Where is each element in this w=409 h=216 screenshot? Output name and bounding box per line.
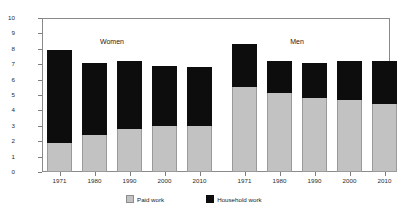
bar-segment-household-work xyxy=(302,63,327,98)
x-axis-tick-mark xyxy=(95,172,96,176)
x-axis-tick-label: 2000 xyxy=(148,177,182,184)
bar-segment-household-work xyxy=(232,44,257,87)
bar-column xyxy=(187,67,212,172)
bar-segment-household-work xyxy=(152,66,177,126)
bar-segment-paid-work xyxy=(117,129,142,172)
y-axis-tick-label: 8 xyxy=(0,46,15,52)
group-heading-men: Men xyxy=(252,38,342,45)
bar-segment-household-work xyxy=(267,61,292,93)
bar-segment-household-work xyxy=(82,63,107,135)
x-axis-tick-label: 1990 xyxy=(298,177,332,184)
legend-label-household-work: Household work xyxy=(217,196,261,203)
bar-segment-household-work xyxy=(47,50,72,142)
legend-label-paid-work: Paid work xyxy=(137,196,164,203)
bar-segment-paid-work xyxy=(267,93,292,172)
x-axis-tick-mark xyxy=(200,172,201,176)
y-axis-tick-label: 6 xyxy=(0,77,15,83)
y-axis-tick-label: 7 xyxy=(0,61,15,67)
bar-segment-paid-work xyxy=(152,126,177,172)
y-axis-tick-label: 5 xyxy=(0,92,15,98)
x-axis-tick-mark xyxy=(350,172,351,176)
y-axis-tick-label: 0 xyxy=(0,169,15,175)
bar-column xyxy=(302,63,327,172)
bar-column xyxy=(152,66,177,172)
legend-item-paid-work: Paid work xyxy=(126,195,164,203)
bar-segment-paid-work xyxy=(337,100,362,172)
bar-segment-household-work xyxy=(337,61,362,100)
y-axis-tick-label: 2 xyxy=(0,138,15,144)
y-axis-tick-label: 9 xyxy=(0,30,15,36)
x-axis-tick-label: 1971 xyxy=(43,177,77,184)
x-axis-tick-mark xyxy=(130,172,131,176)
x-axis-tick-label: 2000 xyxy=(333,177,367,184)
legend-swatch-paid-work xyxy=(126,195,134,203)
y-axis-tick-label: 4 xyxy=(0,107,15,113)
x-axis-tick-mark xyxy=(165,172,166,176)
x-axis-tick-label: 1980 xyxy=(263,177,297,184)
chart-legend: Paid work Household work xyxy=(126,195,262,203)
bar-segment-paid-work xyxy=(187,126,212,172)
y-axis-tick-label: 3 xyxy=(0,123,15,129)
x-axis-tick-label: 2010 xyxy=(368,177,402,184)
bar-segment-household-work xyxy=(187,67,212,126)
bar-column xyxy=(47,50,72,172)
x-axis-tick-mark xyxy=(60,172,61,176)
bar-segment-paid-work xyxy=(82,135,107,172)
bar-column xyxy=(372,61,397,172)
y-axis-tick-label: 1 xyxy=(0,154,15,160)
bar-column xyxy=(82,63,107,172)
x-axis-tick-label: 2010 xyxy=(183,177,217,184)
x-axis-tick-mark xyxy=(385,172,386,176)
bar-segment-household-work xyxy=(117,61,142,129)
y-axis-tick-label: 10 xyxy=(0,15,15,21)
stacked-bar-chart: Hours per day 109876543210 1971198019902… xyxy=(0,0,409,216)
bar-column xyxy=(117,61,142,172)
bar-column xyxy=(267,61,292,172)
bar-column xyxy=(232,44,257,172)
y-axis-tick-mark xyxy=(38,172,42,173)
bar-segment-paid-work xyxy=(232,87,257,172)
x-axis-tick-label: 1971 xyxy=(228,177,262,184)
x-axis-tick-mark xyxy=(245,172,246,176)
x-axis-tick-mark xyxy=(280,172,281,176)
bar-segment-paid-work xyxy=(372,104,397,172)
bar-column xyxy=(337,61,362,172)
x-axis-tick-mark xyxy=(315,172,316,176)
legend-swatch-household-work xyxy=(206,195,214,203)
legend-item-household-work: Household work xyxy=(206,195,261,203)
bar-segment-paid-work xyxy=(47,143,72,172)
x-axis-tick-label: 1980 xyxy=(78,177,112,184)
x-axis-tick-label: 1990 xyxy=(113,177,147,184)
bar-segment-household-work xyxy=(372,61,397,104)
group-heading-women: Women xyxy=(67,38,157,45)
bar-segment-paid-work xyxy=(302,98,327,172)
